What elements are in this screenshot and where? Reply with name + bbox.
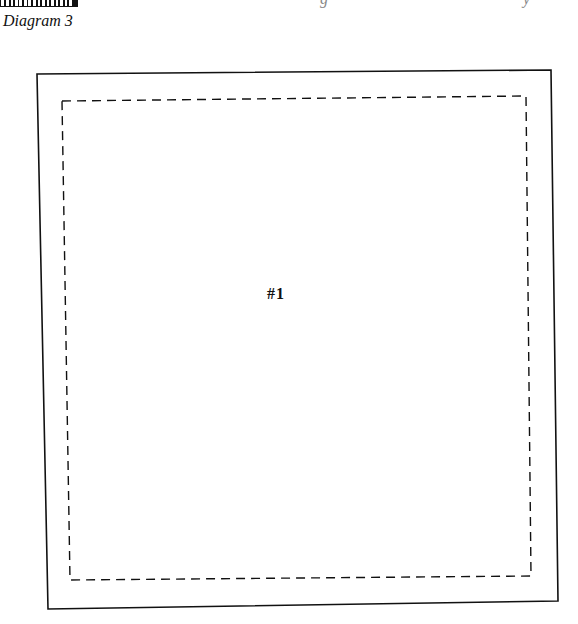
outer-cut-line — [37, 70, 558, 609]
square-template-diagram — [0, 0, 578, 624]
inner-seam-line — [62, 96, 531, 580]
piece-number-label: #1 — [267, 285, 285, 303]
